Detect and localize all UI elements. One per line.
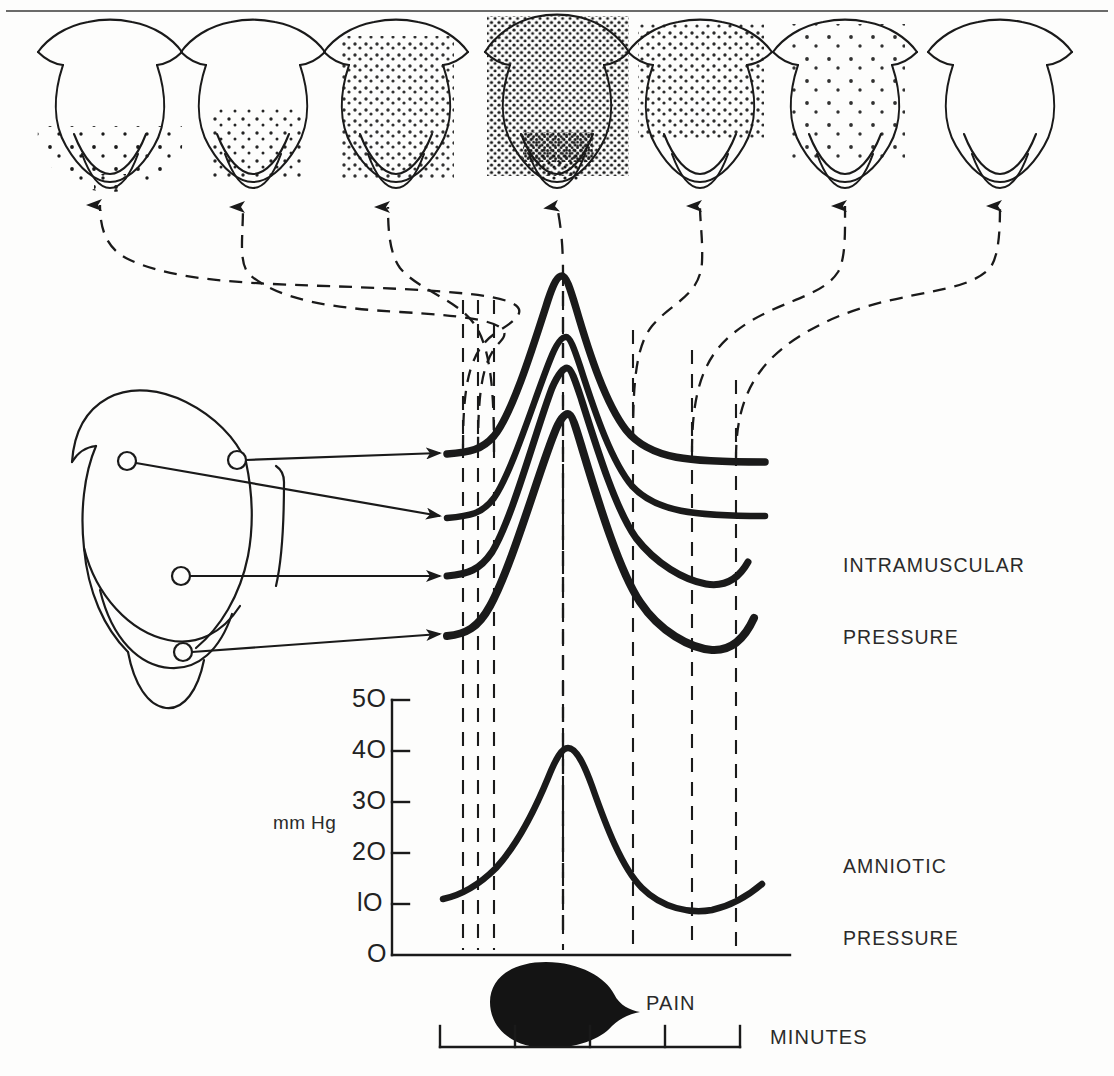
uterus-left-wall — [83, 446, 129, 652]
uterus-panel-3 — [324, 20, 468, 188]
amniotic-pressure-curve — [443, 748, 762, 911]
electrode-marker-1 — [118, 452, 136, 470]
uterus-cavity-line — [276, 466, 284, 586]
electrode-marker-2 — [228, 451, 246, 469]
y-tick-label-10: lO — [357, 888, 383, 917]
y-tick-label-50: 5O — [352, 684, 386, 713]
uterus-panel-6 — [773, 20, 917, 188]
uterus-panel-4 — [485, 15, 629, 188]
uterus-panel-group — [20, 15, 1072, 220]
uterus-right-wall — [196, 462, 252, 648]
electrode-lead-2 — [136, 463, 440, 516]
electrode-lead-4 — [192, 634, 440, 652]
uterus-panel-2 — [181, 20, 325, 188]
y-tick-label-30: 3O — [352, 786, 386, 815]
electrode-uterus-diagram — [72, 390, 284, 708]
amniotic-label-line1: AMNIOTIC — [843, 854, 959, 878]
phase-connector-7 — [736, 206, 1000, 458]
y-tick-label-20: 2O — [352, 837, 386, 866]
amniotic-axis-group — [392, 700, 790, 955]
intramuscular-pressure-label: INTRAMUSCULAR PRESSURE — [843, 505, 1025, 697]
phase-connector-1 — [100, 205, 519, 448]
minutes-scale — [440, 1026, 740, 1047]
pain-label: PAIN — [646, 992, 696, 1015]
amniotic-pressure-label: AMNIOTIC PRESSURE — [843, 806, 959, 998]
y-tick-label-0: O — [367, 939, 387, 968]
uterus-lower-segment-line-2 — [100, 590, 232, 668]
electrode-marker-4 — [174, 643, 192, 661]
uterus-panel-7 — [928, 20, 1072, 188]
phase-connector-2 — [242, 207, 504, 450]
uterus-fundus-outline — [72, 390, 246, 462]
y-axis-title: mm Hg — [273, 812, 336, 834]
uterus-cervix-outline — [128, 652, 204, 708]
electrode-lead-group — [136, 453, 440, 652]
pain-teardrop-marker — [490, 962, 640, 1048]
electrode-marker-3 — [172, 567, 190, 585]
figure-canvas: INTRAMUSCULAR PRESSURE AMNIOTIC PRESSURE… — [0, 0, 1114, 1076]
amniotic-label-line2: PRESSURE — [843, 926, 959, 950]
phase-connector-6 — [692, 206, 845, 452]
uterus-panel-1 — [20, 20, 200, 220]
intramuscular-label-line1: INTRAMUSCULAR — [843, 553, 1025, 577]
electrode-lead-1 — [246, 453, 440, 460]
minutes-label: MINUTES — [770, 1026, 868, 1049]
y-tick-label-40: 4O — [352, 735, 386, 764]
uterus-panel-5 — [628, 20, 772, 188]
intramuscular-label-line2: PRESSURE — [843, 625, 1025, 649]
